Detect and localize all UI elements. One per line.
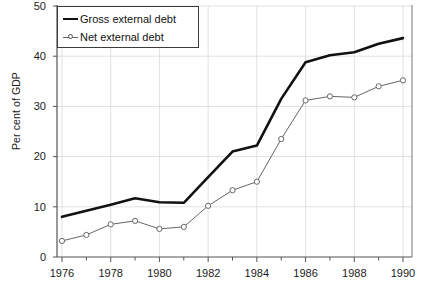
- x-tick-label: 1980: [136, 268, 182, 279]
- legend-line-icon: [63, 12, 78, 26]
- x-tick-label: 1982: [185, 268, 231, 279]
- x-tick-label: 1978: [88, 268, 134, 279]
- x-tick-label: 1986: [283, 268, 329, 279]
- chart-legend: Gross external debt Net external debt: [57, 6, 199, 48]
- y-tick-label: 0: [22, 252, 46, 263]
- legend-item-gross: Gross external debt: [63, 11, 176, 27]
- y-tick-label: 10: [22, 202, 46, 213]
- y-tick-label: 20: [22, 151, 46, 162]
- x-tick-label: 1990: [380, 268, 426, 279]
- y-tick-label: 40: [22, 51, 46, 62]
- x-tick-label: 1976: [39, 268, 85, 279]
- y-tick-label: 50: [22, 1, 46, 12]
- y-axis-title: Per cent of GDP: [10, 41, 22, 181]
- legend-marker-icon: [63, 30, 78, 44]
- legend-label: Gross external debt: [80, 13, 176, 25]
- legend-item-net: Net external debt: [63, 29, 164, 45]
- data-series-layer: [59, 38, 405, 243]
- x-tick-label: 1984: [234, 268, 280, 279]
- legend-label: Net external debt: [80, 31, 164, 43]
- y-tick-label: 30: [22, 101, 46, 112]
- x-tick-label: 1988: [331, 268, 377, 279]
- chart-figure: Per cent of GDP 50 40 30 20 10 0 1976 19…: [0, 0, 436, 294]
